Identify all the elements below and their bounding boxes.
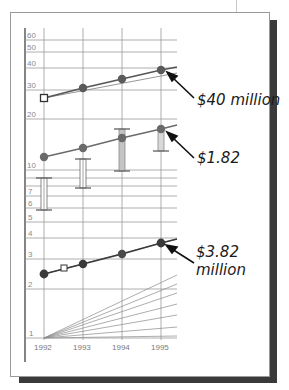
- annotation-arrows: [166, 72, 194, 263]
- circle-marker: [157, 66, 165, 74]
- series-top: [41, 66, 178, 102]
- series-bottom: [40, 239, 177, 279]
- error-bar-1992: [36, 178, 52, 210]
- y-tick-labels: 60 50 40 30 20 10 7 6 5 4 3 2 1: [27, 31, 36, 338]
- annotation-top-label: $40 million: [197, 91, 280, 109]
- svg-text:50: 50: [27, 43, 36, 52]
- svg-text:60: 60: [27, 31, 36, 40]
- error-bars: [36, 129, 169, 210]
- circle-marker: [79, 144, 87, 152]
- svg-text:3: 3: [28, 250, 33, 259]
- svg-text:2: 2: [28, 280, 33, 289]
- svg-text:6: 6: [28, 199, 33, 208]
- arrow-icon-middle: [167, 132, 194, 158]
- annotation-bottom-label-1: $3.82: [196, 243, 239, 261]
- svg-text:10: 10: [27, 161, 36, 170]
- circle-marker: [79, 84, 87, 92]
- circle-marker: [40, 153, 48, 161]
- circle-marker: [40, 270, 49, 279]
- error-bar-1993: [75, 159, 91, 188]
- circle-marker: [118, 134, 126, 142]
- square-marker: [61, 265, 67, 271]
- x-tick-labels: 1992 1993 1994 1995: [34, 343, 169, 352]
- svg-text:20: 20: [27, 110, 36, 119]
- svg-text:40: 40: [27, 59, 36, 68]
- annotation-bottom-label-2: million: [196, 261, 246, 279]
- annotation-middle-label: $1.82: [197, 149, 240, 167]
- chart-svg: 60 50 40 30 20 10 7 6 5 4 3 2 1 1992 199…: [0, 0, 289, 390]
- circle-marker: [118, 250, 126, 258]
- circle-marker: [118, 75, 126, 83]
- svg-text:4: 4: [28, 229, 33, 238]
- arrow-icon-bottom: [166, 245, 194, 263]
- svg-text:30: 30: [27, 81, 36, 90]
- square-marker: [41, 95, 48, 102]
- svg-text:1995: 1995: [151, 343, 169, 352]
- arrow-icon-top: [167, 72, 194, 98]
- svg-text:1: 1: [29, 329, 34, 338]
- svg-text:1993: 1993: [73, 343, 91, 352]
- svg-text:1994: 1994: [112, 343, 130, 352]
- svg-text:1992: 1992: [34, 343, 52, 352]
- circle-marker: [157, 125, 165, 133]
- circle-marker: [79, 260, 87, 268]
- svg-text:5: 5: [28, 213, 33, 222]
- fan-lines: [44, 275, 177, 338]
- series-middle: [40, 125, 177, 161]
- svg-text:7: 7: [28, 187, 33, 196]
- circle-marker: [157, 239, 166, 248]
